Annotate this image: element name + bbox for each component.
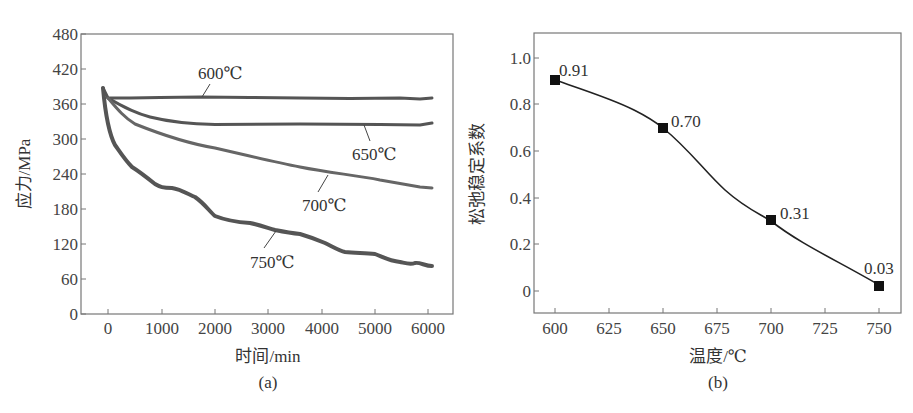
svg-text:625: 625 — [596, 319, 622, 338]
x-tick-labels: 0 1000 2000 3000 4000 5000 6000 — [104, 319, 445, 338]
svg-text:5000: 5000 — [358, 319, 392, 338]
svg-text:300: 300 — [53, 130, 79, 149]
svg-text:60: 60 — [61, 270, 78, 289]
curve-650 — [108, 98, 432, 125]
curve-600 — [103, 88, 432, 99]
svg-text:0.70: 0.70 — [671, 112, 701, 131]
x-axis-ticks — [555, 308, 879, 313]
y-tick-labels: 0 0.2 0.4 0.6 0.8 1.0 — [510, 49, 532, 301]
svg-text:0.8: 0.8 — [510, 95, 531, 114]
figure: 0 60 120 180 240 300 360 420 480 0 1000 … — [0, 0, 913, 413]
caption-b: (b) — [708, 373, 728, 392]
svg-text:1000: 1000 — [145, 319, 179, 338]
y-axis-ticks — [534, 58, 539, 291]
svg-text:2000: 2000 — [198, 319, 232, 338]
svg-text:0.91: 0.91 — [559, 61, 589, 80]
svg-text:600: 600 — [542, 319, 568, 338]
x-axis-label: 温度/℃ — [689, 347, 747, 366]
svg-text:0.4: 0.4 — [510, 189, 532, 208]
chart-a: 0 60 120 180 240 300 360 420 480 0 1000 … — [15, 25, 453, 392]
plot-frame — [81, 34, 453, 314]
marker-750 — [874, 281, 884, 291]
svg-text:1.0: 1.0 — [510, 49, 531, 68]
x-tick-labels: 600 625 650 675 700 725 750 — [542, 319, 892, 338]
svg-text:0.03: 0.03 — [864, 259, 894, 278]
svg-text:180: 180 — [53, 200, 79, 219]
svg-text:650℃: 650℃ — [352, 145, 397, 164]
curve-700 — [108, 98, 432, 188]
svg-text:650: 650 — [650, 319, 676, 338]
marker-700 — [766, 215, 776, 225]
svg-text:0: 0 — [70, 305, 79, 324]
svg-text:0.31: 0.31 — [780, 204, 810, 223]
y-axis-ticks — [81, 34, 86, 314]
svg-text:0.2: 0.2 — [510, 235, 531, 254]
x-axis-ticks — [108, 309, 428, 314]
svg-text:0: 0 — [523, 282, 532, 301]
data-labels: 0.91 0.70 0.31 0.03 — [559, 61, 894, 278]
curve-750 — [103, 88, 432, 266]
y-tick-labels: 0 60 120 180 240 300 360 420 480 — [53, 25, 79, 324]
plot-frame — [534, 33, 901, 313]
svg-text:480: 480 — [53, 25, 79, 44]
svg-text:750: 750 — [866, 319, 892, 338]
svg-text:0: 0 — [104, 319, 113, 338]
x-axis-label: 时间/min — [235, 347, 301, 366]
svg-text:3000: 3000 — [251, 319, 285, 338]
svg-text:4000: 4000 — [305, 319, 339, 338]
svg-text:240: 240 — [53, 165, 79, 184]
fit-curve — [555, 80, 879, 285]
svg-text:6000: 6000 — [411, 319, 445, 338]
svg-text:0.6: 0.6 — [510, 142, 531, 161]
svg-text:725: 725 — [812, 319, 838, 338]
svg-text:675: 675 — [704, 319, 730, 338]
svg-text:120: 120 — [53, 235, 79, 254]
svg-text:700℃: 700℃ — [302, 196, 347, 215]
caption-a: (a) — [259, 373, 278, 392]
series-annotations: 600℃ 650℃ 700℃ 750℃ — [198, 64, 397, 272]
chart-b: 0 0.2 0.4 0.6 0.8 1.0 600 625 650 675 70… — [468, 33, 901, 392]
svg-text:420: 420 — [53, 60, 79, 79]
marker-650 — [658, 123, 668, 133]
y-axis-label: 松弛稳定系数 — [468, 123, 487, 225]
y-axis-label: 应力/MPa — [15, 138, 34, 209]
svg-text:600℃: 600℃ — [198, 64, 243, 83]
svg-text:700: 700 — [758, 319, 784, 338]
svg-text:360: 360 — [53, 95, 79, 114]
annotation-leaders — [202, 84, 370, 248]
svg-text:750℃: 750℃ — [250, 253, 295, 272]
